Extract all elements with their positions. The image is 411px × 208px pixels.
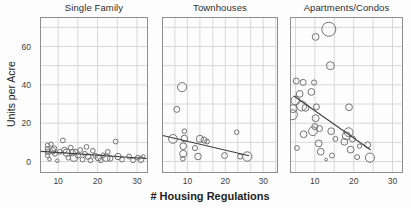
panel-title-apartments-condos: Apartments/Condos [290, 2, 403, 13]
single-family-plot [40, 17, 148, 173]
x-tick-10: 10 [53, 176, 62, 186]
x-tick-30: 30 [258, 176, 267, 186]
housing-regulations-figure: Units per Acre 0204060 Single Family 102… [0, 0, 411, 208]
y-tick-20: 20 [22, 118, 31, 128]
x-tick-labels-apartments-condos: 102030 [290, 173, 403, 187]
panel-apartments-condos: Apartments/Condos 102030 [290, 0, 403, 208]
panel-single-family: Single Family 102030 [40, 0, 148, 208]
x-tick-labels-single-family: 102030 [40, 173, 148, 187]
x-tick-30: 30 [388, 176, 397, 186]
x-tick-labels-townhouses: 102030 [162, 173, 278, 187]
townhouses-plot [162, 17, 278, 173]
y-tick-40: 40 [22, 80, 31, 90]
panel-title-townhouses: Townhouses [162, 2, 278, 13]
panel-townhouses: Townhouses 102030 [162, 0, 278, 208]
x-tick-10: 10 [310, 176, 319, 186]
x-tick-20: 20 [221, 176, 230, 186]
x-tick-20: 20 [93, 176, 102, 186]
apartments-condos-plot [290, 17, 403, 173]
x-axis-label: # Housing Regulations [120, 190, 300, 202]
y-tick-60: 60 [22, 42, 31, 52]
x-tick-30: 30 [132, 176, 141, 186]
x-tick-10: 10 [183, 176, 192, 186]
y-axis-tick-labels: 0204060 [0, 17, 34, 173]
panel-title-single-family: Single Family [40, 2, 148, 13]
x-tick-20: 20 [349, 176, 358, 186]
y-tick-0: 0 [26, 157, 31, 167]
